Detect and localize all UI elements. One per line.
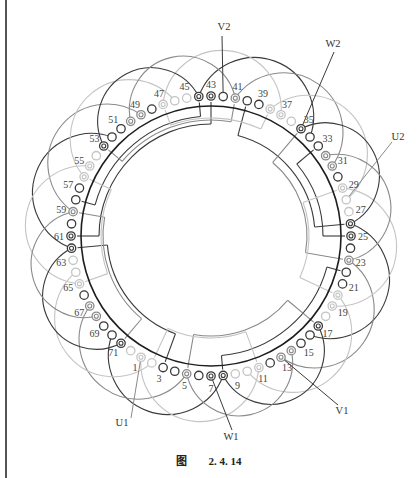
- slot-marker: [314, 142, 322, 150]
- slot-label: 39: [258, 88, 268, 99]
- slot-marker: [287, 346, 295, 354]
- slot-marker: [67, 220, 75, 228]
- slot-label: 29: [349, 179, 359, 190]
- slot-marker: [75, 280, 83, 288]
- slot-marker: [148, 105, 156, 113]
- slot-label: 1: [133, 362, 138, 373]
- slot-marker: [92, 312, 100, 320]
- connection-wire: [273, 163, 307, 253]
- connection-wire: [222, 267, 327, 355]
- slot-marker: [80, 173, 88, 181]
- slot-marker: [306, 133, 314, 141]
- slot-marker: [100, 142, 108, 150]
- slot-label: 25: [358, 231, 368, 242]
- slot-marker: [277, 111, 285, 119]
- slot-marker: [195, 92, 203, 100]
- slot-marker: [86, 162, 94, 170]
- coil-arc: [108, 335, 223, 414]
- slot-marker: [297, 125, 305, 133]
- slot-label: 55: [74, 155, 84, 166]
- slot-marker: [137, 111, 145, 119]
- terminal-label-v1: V1: [336, 405, 349, 416]
- connection-drop: [303, 190, 337, 202]
- slot-marker: [80, 291, 88, 299]
- slot-marker: [86, 302, 94, 310]
- slot-marker: [171, 97, 179, 105]
- slot-label: 5: [182, 380, 187, 391]
- slot-marker: [266, 105, 274, 113]
- slot-label: 45: [180, 81, 190, 92]
- connection-wire: [238, 136, 315, 227]
- slot-marker: [328, 162, 336, 170]
- slot-marker: [277, 353, 285, 361]
- slot-marker: [328, 302, 336, 310]
- slot-label: 69: [90, 328, 100, 339]
- slot-marker: [338, 280, 346, 288]
- slot-marker: [342, 196, 350, 204]
- slot-label: 33: [322, 133, 332, 144]
- slot-marker: [321, 151, 329, 159]
- slot-marker: [100, 322, 108, 330]
- slot-marker: [207, 92, 215, 100]
- slot-label: 51: [108, 114, 118, 125]
- slot-label: 65: [63, 282, 73, 293]
- terminal-label-u2: U2: [392, 131, 405, 142]
- slot-marker: [219, 371, 227, 379]
- slot-marker: [67, 232, 75, 240]
- slot-marker: [243, 97, 251, 105]
- coil-arc: [199, 58, 314, 137]
- connection-drop: [82, 201, 96, 205]
- slot-marker: [321, 312, 329, 320]
- slot-marker: [182, 370, 190, 378]
- slot-marker: [345, 207, 353, 215]
- slot-marker: [347, 232, 355, 240]
- slot-label: 59: [56, 204, 66, 215]
- connection-drop: [300, 277, 333, 292]
- slot-marker: [137, 353, 145, 361]
- slot-label: 57: [63, 179, 73, 190]
- slot-marker: [231, 370, 239, 378]
- slot-marker: [346, 220, 354, 228]
- slot-marker: [148, 359, 156, 367]
- figure-caption-number: 2. 4. 14: [209, 455, 242, 467]
- slot-label: 53: [90, 133, 100, 144]
- slot-marker: [345, 256, 353, 264]
- slot-marker: [306, 331, 314, 339]
- slot-marker: [69, 256, 77, 264]
- slot-label: 3: [157, 373, 162, 384]
- slot-marker: [266, 359, 274, 367]
- slot-label: 41: [232, 81, 242, 92]
- slot-marker: [92, 151, 100, 159]
- slot-marker: [159, 100, 167, 108]
- connection-drop: [273, 133, 297, 162]
- slot-label: 67: [74, 307, 84, 318]
- terminal-label-w1: W1: [223, 431, 238, 442]
- slot-marker: [334, 291, 342, 299]
- slot-label: 13: [282, 362, 292, 373]
- slot-label: 17: [322, 328, 332, 339]
- slot-label: 43: [206, 79, 216, 90]
- terminal-lead-u2: [346, 142, 392, 200]
- connection-drop: [231, 104, 234, 122]
- slot-markers: [67, 92, 355, 380]
- connection-wire: [194, 300, 288, 336]
- slot-marker: [287, 117, 295, 125]
- connection-drop: [199, 103, 200, 117]
- slot-marker: [69, 207, 77, 215]
- connection-drop: [306, 253, 343, 260]
- terminal-label-w2: W2: [325, 38, 340, 49]
- slot-label: 63: [56, 257, 66, 268]
- slot-label: 9: [235, 380, 240, 391]
- slot-marker: [159, 363, 167, 371]
- slot-marker: [72, 268, 80, 276]
- slot-marker: [338, 184, 346, 192]
- slot-marker: [231, 94, 239, 102]
- slot-label: 71: [108, 347, 118, 358]
- slot-label: 23: [356, 257, 366, 268]
- connection-drop: [154, 328, 168, 357]
- stator-winding-diagram: V2W2U2U1W1V1 135791113151719212325272931…: [0, 0, 417, 478]
- connection-drop: [327, 267, 341, 271]
- slot-label: 27: [356, 204, 366, 215]
- slot-label: 15: [304, 347, 314, 358]
- slot-label: 47: [154, 88, 164, 99]
